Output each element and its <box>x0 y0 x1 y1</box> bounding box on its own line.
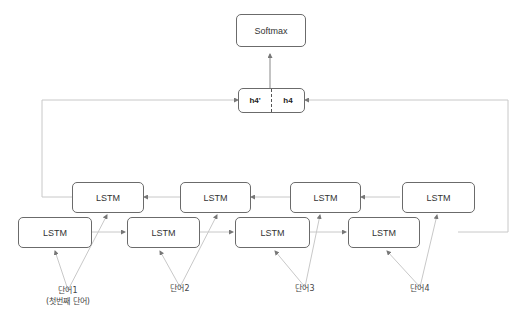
input-word-label: 단어4 <box>400 283 440 294</box>
lstm-label: LSTM <box>372 228 396 238</box>
lstm-label: LSTM <box>313 193 337 203</box>
input-word-3: 단어3 <box>285 283 325 294</box>
lstm-label: LSTM <box>203 193 227 203</box>
forward-lstm-1: LSTM <box>18 217 92 248</box>
lstm-label: LSTM <box>43 228 67 238</box>
lstm-label: LSTM <box>96 193 120 203</box>
input-word-label: 단어3 <box>285 283 325 294</box>
input-word-sublabel: (첫번째 단어) <box>38 296 98 307</box>
lstm-label: LSTM <box>151 228 175 238</box>
diagram-canvas: Softmax h4' h4 LSTM LSTM LSTM LSTM LSTM … <box>0 0 522 315</box>
connection-wires <box>0 0 522 315</box>
input-word-4: 단어4 <box>400 283 440 294</box>
forward-lstm-4: LSTM <box>348 217 420 248</box>
input-word-label: 단어2 <box>160 283 200 294</box>
forward-lstm-2: LSTM <box>127 217 200 248</box>
backward-lstm-2: LSTM <box>180 182 251 213</box>
backward-lstm-1: LSTM <box>72 182 144 213</box>
forward-hidden-state: h4 <box>272 89 304 112</box>
backward-lstm-3: LSTM <box>290 182 361 213</box>
lstm-label: LSTM <box>426 193 450 203</box>
forward-lstm-3: LSTM <box>235 217 310 248</box>
hidden-state-concat-node: h4' h4 <box>238 88 305 113</box>
softmax-label: Softmax <box>254 26 287 36</box>
softmax-node: Softmax <box>236 14 306 47</box>
lstm-label: LSTM <box>260 228 284 238</box>
input-word-2: 단어2 <box>160 283 200 294</box>
backward-lstm-4: LSTM <box>402 182 475 213</box>
backward-hidden-state: h4' <box>239 89 271 112</box>
input-word-label: 단어1 <box>38 285 98 296</box>
input-word-1: 단어1 (첫번째 단어) <box>38 285 98 307</box>
